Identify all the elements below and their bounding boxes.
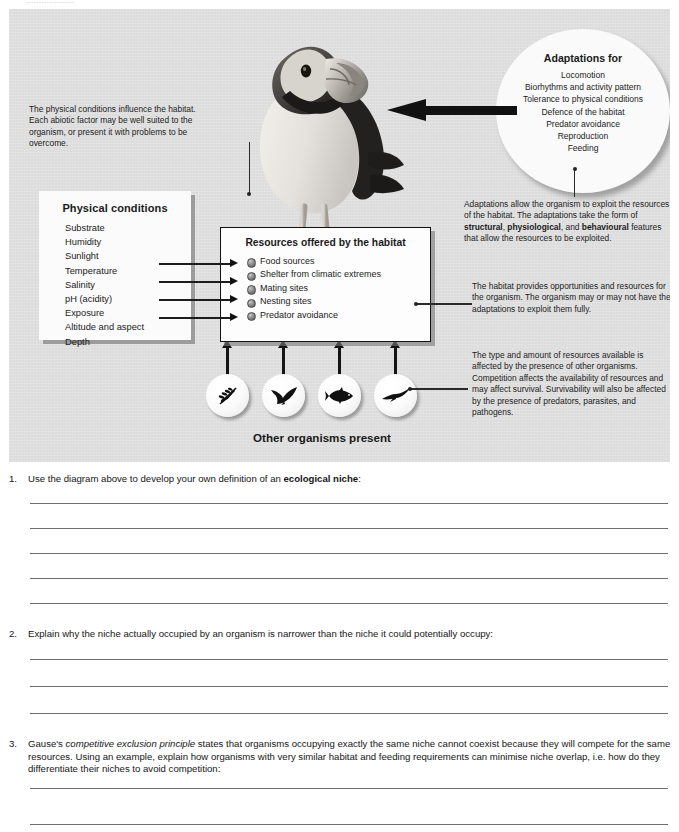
- organism-arrow-line-4: [394, 348, 397, 375]
- answer-line[interactable]: [30, 503, 668, 504]
- list-item: Altitude and aspect: [65, 320, 191, 334]
- adaptations-note-bold1: structural: [464, 222, 503, 232]
- resources-list: Food sources Shelter from climatic extre…: [221, 255, 430, 322]
- influence-arrow-line-1: [159, 263, 230, 264]
- answer-line[interactable]: [30, 659, 668, 660]
- plant-icon: [206, 374, 249, 417]
- influence-arrow-head-3: [230, 295, 238, 303]
- question-1-bold: ecological niche: [283, 473, 358, 484]
- list-item-label: Food sources: [260, 256, 315, 266]
- adaptations-note-part1: Adaptations allow the organism to exploi…: [464, 199, 669, 220]
- adaptations-title: Adaptations for: [496, 52, 670, 64]
- adaptations-list: Locomotion Biorhythms and activity patte…: [496, 69, 670, 154]
- sphere-bullet-icon: [247, 272, 256, 281]
- question-1-text: Use the diagram above to develop your ow…: [28, 473, 671, 486]
- habitat-note-leader-line: [416, 303, 472, 304]
- list-item: Reproduction: [496, 130, 670, 142]
- answer-line[interactable]: [30, 553, 668, 554]
- answer-line[interactable]: [30, 686, 668, 687]
- answer-line[interactable]: [30, 528, 668, 529]
- list-item-label: Mating sites: [260, 283, 308, 293]
- influence-arrow-head-2: [230, 277, 238, 285]
- list-item-label: Shelter from climatic extremes: [260, 269, 381, 279]
- list-item: Predator avoidance: [496, 118, 670, 130]
- list-item: Humidity: [65, 235, 191, 249]
- resources-box: Resources offered by the habitat Food so…: [220, 227, 431, 342]
- question-1: 1. Use the diagram above to develop your…: [9, 473, 671, 486]
- influence-arrow-head-1: [230, 259, 238, 267]
- organism-arrow-line-1: [226, 348, 229, 375]
- list-item: Tolerance to physical conditions: [496, 93, 670, 105]
- list-item: Nesting sites: [247, 295, 430, 308]
- adaptations-note-part3: , and: [561, 222, 582, 232]
- clipped-header-text: ...................: [0, 0, 679, 9]
- puffin-photograph: [252, 23, 412, 245]
- sphere-bullet-icon: [247, 258, 256, 267]
- answer-line[interactable]: [30, 824, 668, 825]
- question-2: 2. Explain why the niche actually occupi…: [9, 628, 671, 641]
- competition-note-leader-line: [410, 388, 468, 389]
- organism-arrow-line-2: [282, 348, 285, 375]
- question-2-text: Explain why the niche actually occupied …: [28, 628, 671, 641]
- physical-note-leader-line: [249, 142, 250, 194]
- adaptations-ellipse: Adaptations for Locomotion Biorhythms an…: [496, 29, 670, 193]
- adaptations-leader-line: [574, 169, 575, 197]
- sphere-bullet-icon: [247, 299, 256, 308]
- habitat-note: The habitat provides opportunities and r…: [472, 281, 670, 315]
- competition-note: The type and amount of resources availab…: [472, 350, 670, 418]
- sphere-bullet-icon: [247, 312, 256, 321]
- physical-conditions-note: The physical conditions influence the ha…: [29, 104, 207, 150]
- influence-arrow-line-3: [159, 299, 230, 300]
- answer-line[interactable]: [30, 578, 668, 579]
- adaptations-note-bold2: physiological: [507, 222, 561, 232]
- gull-icon: [262, 374, 305, 417]
- list-item: Biorhythms and activity pattern: [496, 81, 670, 93]
- question-2-number: 2.: [9, 628, 28, 641]
- resources-title: Resources offered by the habitat: [221, 237, 430, 248]
- list-item: Feeding: [496, 142, 670, 154]
- question-1-post: :: [358, 473, 361, 484]
- question-3-italic: competitive exclusion principle: [66, 738, 196, 749]
- list-item: Salinity: [65, 278, 191, 292]
- influence-arrow-line-4: [159, 317, 230, 318]
- list-item: Sunlight: [65, 249, 191, 263]
- influence-arrow-line-2: [159, 281, 230, 282]
- influence-arrow-head-4: [230, 313, 238, 321]
- niche-diagram-panel: The physical conditions influence the ha…: [9, 9, 670, 462]
- organism-arrow-line-3: [338, 348, 341, 375]
- competition-note-dot: [408, 387, 412, 391]
- fish-icon: [318, 374, 361, 417]
- physical-note-leader-dot: [247, 192, 251, 196]
- question-3-pre: Gause's: [28, 738, 66, 749]
- question-3-text: Gause's competitive exclusion principle …: [28, 738, 671, 776]
- list-item: Mating sites: [247, 282, 430, 295]
- list-item: Predator avoidance: [247, 309, 430, 322]
- physical-conditions-list: Substrate Humidity Sunlight Temperature …: [39, 221, 191, 349]
- answer-line[interactable]: [30, 603, 668, 604]
- list-item: Substrate: [65, 221, 191, 235]
- adaptations-note-bold3: behavioural: [582, 222, 629, 232]
- list-item: Depth: [65, 335, 191, 349]
- adaptations-note: Adaptations allow the organism to exploi…: [464, 199, 670, 245]
- list-item: Temperature: [65, 264, 191, 278]
- question-1-pre: Use the diagram above to develop your ow…: [28, 473, 283, 484]
- physical-conditions-title: Physical conditions: [39, 202, 191, 214]
- habitat-note-dot: [414, 302, 418, 306]
- question-3: 3. Gause's competitive exclusion princip…: [9, 738, 671, 776]
- list-item: Food sources: [247, 255, 430, 268]
- sphere-bullet-icon: [247, 285, 256, 294]
- answer-line[interactable]: [30, 713, 668, 714]
- list-item: Locomotion: [496, 69, 670, 81]
- list-item: Defence of the habitat: [496, 106, 670, 118]
- list-item-label: Nesting sites: [260, 296, 312, 306]
- soaring-bird-icon: [374, 374, 417, 417]
- list-item-label: Predator avoidance: [260, 310, 338, 320]
- list-item: Shelter from climatic extremes: [247, 268, 430, 281]
- answer-line[interactable]: [30, 788, 668, 789]
- adaptations-arrow-head: [387, 99, 426, 121]
- question-1-number: 1.: [9, 473, 28, 486]
- other-organisms-label: Other organisms present: [217, 431, 427, 444]
- question-3-number: 3.: [9, 738, 28, 751]
- adaptations-leader-dot: [573, 167, 577, 171]
- adaptations-arrow-shaft: [425, 106, 517, 115]
